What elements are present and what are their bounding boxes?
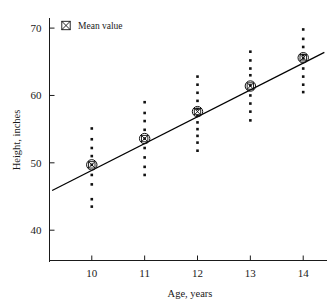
- legend-marker-icon: [62, 21, 70, 29]
- data-point: [90, 183, 93, 186]
- data-point: [302, 75, 305, 78]
- legend-label: Mean value: [78, 21, 123, 31]
- data-point: [302, 38, 305, 41]
- mean-marker: [192, 106, 202, 116]
- data-point: [196, 128, 199, 131]
- data-point: [143, 101, 146, 104]
- scatter-plot: 40506070 1011121314 Age, years Height, i…: [0, 0, 336, 304]
- data-point: [143, 156, 146, 159]
- data-point: [302, 91, 305, 94]
- data-point: [90, 147, 93, 150]
- data-point: [302, 28, 305, 31]
- x-tick-label: 14: [298, 267, 310, 279]
- y-tick-label: 70: [31, 22, 43, 34]
- data-point: [196, 135, 199, 138]
- y-axis-ticks: [50, 28, 55, 230]
- x-axis-tick-labels: 1011121314: [86, 267, 309, 279]
- data-point: [143, 112, 146, 115]
- mean-markers: [87, 53, 309, 171]
- x-axis-ticks: [92, 256, 303, 261]
- x-tick-label: 13: [245, 267, 257, 279]
- mean-marker: [298, 53, 308, 63]
- data-point: [302, 83, 305, 86]
- x-tick-label: 12: [192, 267, 203, 279]
- data-point: [249, 110, 252, 113]
- x-tick-label: 11: [139, 267, 150, 279]
- data-point: [249, 50, 252, 53]
- data-point: [249, 67, 252, 70]
- data-point: [249, 94, 252, 97]
- data-point: [249, 102, 252, 105]
- data-point: [143, 174, 146, 177]
- data-point: [196, 83, 199, 86]
- x-tick-label: 10: [86, 267, 98, 279]
- chart-container: 40506070 1011121314 Age, years Height, i…: [0, 0, 336, 304]
- data-point: [196, 91, 199, 94]
- x-axis-title: Age, years: [168, 288, 213, 299]
- data-point: [302, 46, 305, 49]
- data-point: [302, 67, 305, 70]
- data-point: [249, 59, 252, 62]
- data-point: [90, 198, 93, 201]
- data-point: [90, 155, 93, 158]
- y-tick-label: 60: [31, 89, 43, 101]
- y-tick-label: 50: [31, 157, 43, 169]
- data-point: [249, 74, 252, 77]
- mean-marker: [87, 160, 97, 170]
- data-point: [143, 147, 146, 150]
- legend: Mean value: [62, 21, 123, 31]
- data-point: [90, 138, 93, 141]
- data-point: [249, 119, 252, 122]
- mean-marker: [139, 133, 149, 143]
- data-points: [90, 28, 304, 208]
- y-tick-label: 40: [31, 224, 43, 236]
- data-point: [143, 166, 146, 169]
- y-axis-title: Height, inches: [11, 110, 22, 171]
- data-point: [196, 121, 199, 124]
- data-point: [143, 129, 146, 132]
- mean-marker: [245, 81, 255, 91]
- data-point: [196, 149, 199, 152]
- y-axis-tick-labels: 40506070: [31, 22, 43, 236]
- data-point: [143, 120, 146, 123]
- data-point: [90, 205, 93, 208]
- data-point: [196, 141, 199, 144]
- data-point: [90, 127, 93, 130]
- data-point: [196, 75, 199, 78]
- data-point: [90, 174, 93, 177]
- data-point: [196, 100, 199, 103]
